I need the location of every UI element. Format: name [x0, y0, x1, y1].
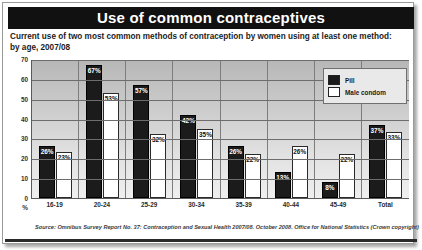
bar-value-label: 33% — [387, 134, 401, 141]
bar-pill: 13% — [275, 172, 291, 198]
source-note: Source: Omnibus Survey Report No. 37: Co… — [35, 224, 411, 230]
chart-card: Use of common contraceptives Current use… — [2, 2, 414, 244]
gridline — [32, 179, 409, 180]
subtitle-line-1: Current use of two most common methods o… — [10, 32, 410, 43]
x-label-total: Total — [362, 201, 409, 208]
y-tick-50: 50 — [21, 97, 28, 103]
bar-male-condom: 22% — [339, 154, 355, 198]
y-tick-30: 30 — [21, 136, 28, 142]
x-label-40-44: 40-44 — [267, 201, 314, 208]
chart-subtitle: Current use of two most common methods o… — [10, 32, 410, 53]
legend-item-male-condom: Male condom — [328, 87, 402, 97]
chart-title: Use of common contraceptives — [8, 7, 414, 29]
bar-value-label: 57% — [134, 87, 148, 94]
gridline — [32, 60, 409, 61]
gridline — [32, 159, 409, 160]
legend-label-pill: Pill — [345, 77, 355, 84]
bar-pill: 67% — [86, 65, 102, 198]
gridline — [32, 139, 409, 140]
y-tick-0: 0 — [24, 196, 28, 202]
bar-male-condom: 32% — [150, 134, 166, 198]
bar-value-label: 26% — [229, 148, 243, 155]
bar-pill: 57% — [133, 85, 149, 198]
x-label-35-39: 35-39 — [220, 201, 267, 208]
legend-item-pill: Pill — [328, 75, 402, 85]
bar-pill: 37% — [369, 125, 385, 198]
bar-pill: 26% — [228, 146, 244, 198]
bar-value-label: 23% — [57, 154, 71, 161]
chart-legend: Pill Male condom — [323, 68, 407, 104]
footer-rule — [5, 239, 417, 242]
y-tick-60: 60 — [21, 77, 28, 83]
bar-value-label: 37% — [370, 127, 384, 134]
y-axis-unit: % — [22, 205, 28, 211]
bar-pill: 8% — [322, 182, 338, 198]
subtitle-line-2: by age, 2007/08 — [10, 43, 410, 54]
gridline — [32, 120, 409, 121]
x-label-25-29: 25-29 — [126, 201, 173, 208]
bar-value-label: 53% — [104, 95, 118, 102]
legend-swatch-male-condom — [328, 87, 340, 97]
bar-male-condom: 33% — [386, 132, 402, 198]
x-label-30-34: 30-34 — [173, 201, 220, 208]
bar-value-label: 35% — [198, 131, 212, 138]
bar-value-label: 26% — [40, 148, 54, 155]
x-label-20-24: 20-24 — [78, 201, 125, 208]
x-axis-labels: 16-1920-2425-2930-3435-3940-4445-49Total — [31, 201, 409, 208]
bar-pill: 26% — [39, 146, 55, 198]
y-tick-40: 40 — [21, 116, 28, 122]
legend-label-male-condom: Male condom — [345, 89, 386, 96]
bar-pill: 42% — [180, 115, 196, 198]
title-banner: Use of common contraceptives — [8, 7, 414, 29]
x-label-16-19: 16-19 — [31, 201, 78, 208]
y-tick-20: 20 — [21, 156, 28, 162]
bar-male-condom: 26% — [292, 146, 308, 198]
y-tick-70: 70 — [21, 57, 28, 63]
chart-figure: Use of common contraceptives Current use… — [0, 0, 422, 250]
plot-area: 706050403020100% 26%23%67%53%57%32%42%35… — [10, 60, 415, 220]
bar-value-label: 67% — [87, 67, 101, 74]
y-axis: 706050403020100% — [10, 60, 30, 199]
bar-value-label: 26% — [293, 148, 307, 155]
bar-value-label: 8% — [323, 184, 337, 191]
legend-swatch-pill — [328, 75, 340, 85]
y-tick-10: 10 — [21, 176, 28, 182]
x-label-45-49: 45-49 — [315, 201, 362, 208]
bar-male-condom: 22% — [245, 154, 261, 198]
bar-male-condom: 53% — [103, 93, 119, 198]
